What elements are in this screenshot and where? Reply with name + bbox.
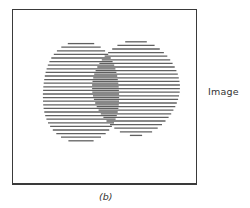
image-label: Image	[208, 86, 239, 97]
figure-caption: (b)	[99, 191, 112, 202]
right-ellipse	[92, 42, 180, 136]
scanline-pattern	[0, 0, 250, 208]
